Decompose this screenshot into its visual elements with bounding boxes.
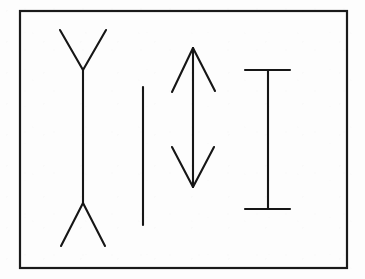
- figure-4-perpendicular-caps-i-beam: [245, 70, 290, 209]
- diagram-canvas: [0, 0, 365, 279]
- figure-1-top-left-fin: [60, 30, 83, 70]
- figure-3-bottom-left-fin: [172, 147, 193, 187]
- figures-group: [60, 30, 290, 246]
- figure-1-outward-fins-arrow: [60, 30, 106, 246]
- figure-3-top-left-fin: [172, 48, 193, 92]
- figure-1-top-right-fin: [83, 30, 106, 70]
- figure-3-top-right-fin: [193, 48, 215, 91]
- muller-lyer-figure: [0, 0, 365, 279]
- figure-3-inward-fins-double-arrow: [172, 48, 215, 187]
- figure-3-bottom-right-fin: [193, 147, 214, 187]
- figure-1-bottom-left-fin: [61, 203, 83, 246]
- figure-1-bottom-right-fin: [83, 203, 105, 246]
